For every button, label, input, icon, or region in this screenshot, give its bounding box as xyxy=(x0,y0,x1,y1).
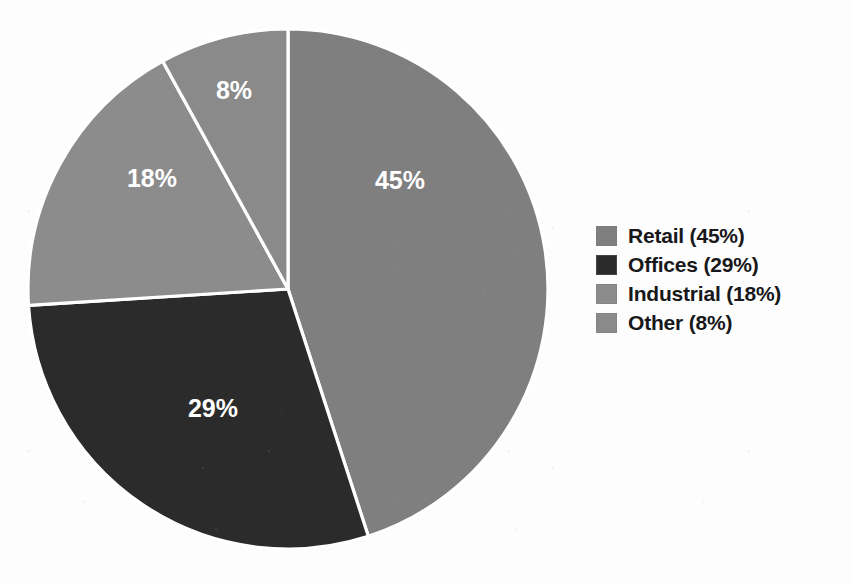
pie-slices-group xyxy=(28,29,548,549)
legend-item-other[interactable]: Other (8%) xyxy=(596,311,781,335)
pie-slice-label-industrial: 18% xyxy=(127,164,177,192)
legend-item-retail[interactable]: Retail (45%) xyxy=(596,224,781,248)
legend-label-retail: Retail (45%) xyxy=(628,224,745,248)
legend-label-industrial: Industrial (18%) xyxy=(628,282,781,306)
legend-swatch-other xyxy=(596,313,617,333)
legend-swatch-offices xyxy=(596,255,617,275)
pie-slice-label-other: 8% xyxy=(216,76,252,104)
legend-label-other: Other (8%) xyxy=(628,311,732,335)
chart-legend: Retail (45%)Offices (29%)Industrial (18%… xyxy=(596,224,781,335)
legend-swatch-retail xyxy=(596,226,617,246)
pie-slice-label-retail: 45% xyxy=(375,166,425,194)
pie-chart-page: 45%29%18%8% Retail (45%)Offices (29%)Ind… xyxy=(0,0,850,584)
legend-item-offices[interactable]: Offices (29%) xyxy=(596,253,781,277)
legend-label-offices: Offices (29%) xyxy=(628,253,758,277)
pie-slice-label-offices: 29% xyxy=(188,394,238,422)
legend-item-industrial[interactable]: Industrial (18%) xyxy=(596,282,781,306)
legend-swatch-industrial xyxy=(596,284,617,304)
